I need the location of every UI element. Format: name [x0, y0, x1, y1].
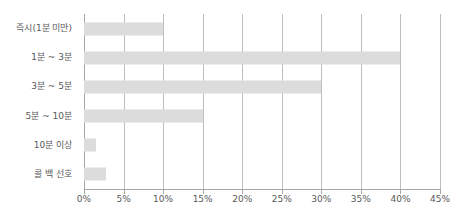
bar-row	[84, 102, 440, 131]
bar[interactable]	[84, 22, 163, 35]
bars-layer	[84, 14, 440, 189]
bar[interactable]	[84, 80, 321, 93]
category-label: 10분 이상	[0, 131, 78, 160]
gridline-45pct	[440, 14, 441, 189]
x-axis-tick-labels: 0%5%10%15%20%25%30%35%40%45%	[84, 195, 440, 209]
category-label: 즉시(1분 미만)	[0, 14, 78, 43]
category-label: 3분 ~ 5분	[0, 72, 78, 101]
bar-chart: 즉시(1분 미만) 1분 ~ 3분 3분 ~ 5분 5분 ~ 10분 10분 이…	[0, 0, 475, 213]
bar[interactable]	[84, 168, 106, 181]
category-label: 5분 ~ 10분	[0, 102, 78, 131]
x-axis-tick-label: 30%	[311, 195, 331, 204]
x-axis-tick-label: 15%	[193, 195, 213, 204]
bar[interactable]	[84, 139, 96, 152]
bar[interactable]	[84, 51, 400, 64]
x-axis-tick-label: 0%	[77, 195, 91, 204]
x-axis-ticks	[84, 189, 440, 194]
y-axis-category-labels: 즉시(1분 미만) 1분 ~ 3분 3분 ~ 5분 5분 ~ 10분 10분 이…	[0, 14, 78, 189]
bar[interactable]	[84, 110, 203, 123]
x-axis-tick-label: 25%	[272, 195, 292, 204]
bar-row	[84, 131, 440, 160]
x-axis-tick-label: 20%	[232, 195, 252, 204]
x-axis-tick-label: 40%	[390, 195, 410, 204]
x-axis-tick-label: 5%	[116, 195, 130, 204]
plot-area	[84, 14, 440, 189]
bar-row	[84, 14, 440, 43]
category-label: 콜 백 선호	[0, 160, 78, 189]
x-axis-tick-label: 35%	[351, 195, 371, 204]
x-axis-tick-label: 10%	[153, 195, 173, 204]
bar-row	[84, 160, 440, 189]
bar-row	[84, 72, 440, 101]
x-axis-tick-label: 45%	[430, 195, 450, 204]
category-label: 1분 ~ 3분	[0, 43, 78, 72]
bar-row	[84, 43, 440, 72]
